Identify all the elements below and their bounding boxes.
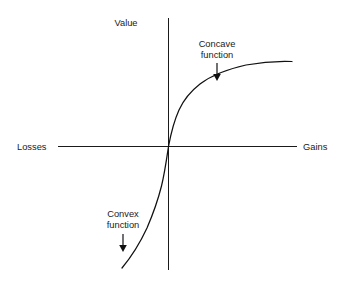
concave-annotation-line1: Concave: [199, 39, 236, 49]
prospect-theory-value-function-chart: Value Losses Gains Concave function Conv…: [0, 0, 342, 283]
chart-background: [0, 0, 342, 283]
convex-annotation-line2: function: [107, 220, 140, 230]
concave-annotation-line2: function: [201, 50, 234, 60]
convex-annotation-line1: Convex: [107, 209, 139, 219]
x-axis-left-label: Losses: [17, 142, 47, 152]
y-axis-label: Value: [114, 18, 137, 28]
x-axis-right-label: Gains: [303, 142, 328, 152]
value-function-figure: Value Losses Gains Concave function Conv…: [0, 0, 342, 283]
